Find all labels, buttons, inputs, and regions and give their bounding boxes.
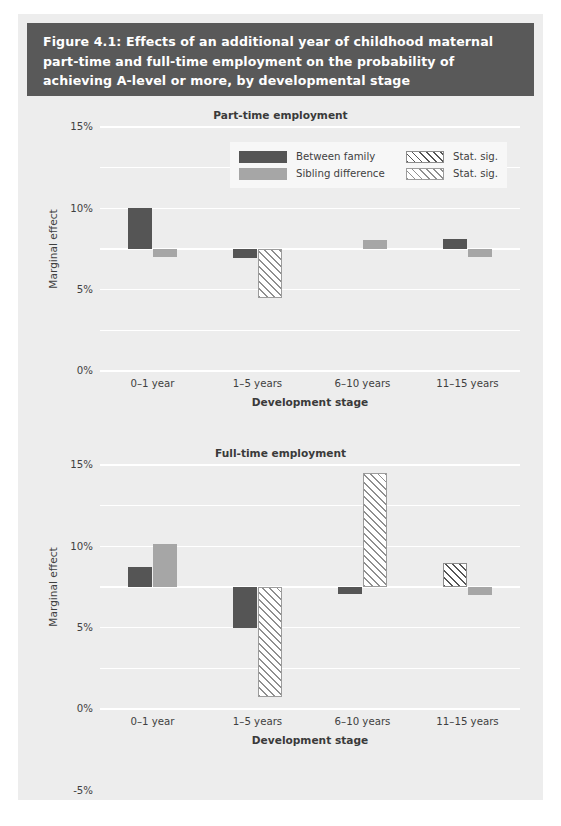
chart-panel-part-time: Part-time employment Marginal effect 15%… <box>27 100 534 430</box>
gridline-10: 10% <box>100 505 520 507</box>
bar <box>233 587 257 628</box>
legend-label-stat-sig-light: Stat. sig. <box>453 168 499 179</box>
bar <box>443 239 467 249</box>
chart-subtitle-full-time: Full-time employment <box>27 447 534 459</box>
bar <box>468 249 492 257</box>
legend-swatch-sibling-difference <box>239 168 287 180</box>
x-axis-title-full-time: Development stage <box>100 734 520 746</box>
legend-swatch-stat-sig-dark <box>406 151 444 163</box>
y-axis-title-part-time: Marginal effect <box>45 127 61 371</box>
bar <box>153 249 177 257</box>
y-axis-tick-label: 0% <box>77 703 93 714</box>
legend-swatch-stat-sig-light <box>406 168 444 180</box>
gridline-neg15: -15% <box>100 370 520 372</box>
figure-title-bar: Figure 4.1: Effects of an additional yea… <box>27 23 534 96</box>
y-axis-tick-label: 5% <box>77 283 93 294</box>
legend-swatch-between-family <box>239 151 287 163</box>
y-axis-tick-label: 0% <box>77 365 93 376</box>
bar <box>363 240 387 249</box>
legend-label-between-family: Between family <box>296 151 400 162</box>
bar <box>258 249 282 298</box>
bar <box>128 567 152 587</box>
gridline-15: 15% <box>100 464 520 466</box>
y-axis-title-full-time: Marginal effect <box>45 465 61 709</box>
y-axis-tick-label: 15% <box>70 121 93 132</box>
x-axis-tick-labels-full-time: 0–1 year1–5 years6–10 years11–15 years <box>100 716 520 727</box>
x-axis-tick-label: 6–10 years <box>310 378 415 389</box>
gridline-neg10: -10% <box>100 668 520 670</box>
gridline-15: 15% <box>100 126 520 128</box>
x-axis-tick-label: 11–15 years <box>415 716 520 727</box>
x-axis-title-part-time: Development stage <box>100 396 520 408</box>
plot-area-full-time: 15%10%5%0%-5%-10%-15% <box>100 465 520 709</box>
gridline-neg10: -10% <box>100 330 520 332</box>
bar <box>363 473 387 587</box>
chart-subtitle-part-time: Part-time employment <box>27 109 534 121</box>
y-axis-tick-label: 5% <box>77 621 93 632</box>
chart-legend: Between family Stat. sig. Sibling differ… <box>230 142 507 188</box>
x-axis-tick-label: 11–15 years <box>415 378 520 389</box>
bar <box>233 249 257 258</box>
gridline-neg5: -5% <box>100 289 520 291</box>
bar <box>153 544 177 587</box>
x-axis-tick-label: 6–10 years <box>310 716 415 727</box>
y-axis-tick-label: 10% <box>70 202 93 213</box>
gridline-neg15: -15% <box>100 708 520 710</box>
chart-panel-full-time: Full-time employment Marginal effect 15%… <box>27 438 534 768</box>
x-axis-tick-label: 1–5 years <box>205 716 310 727</box>
bar <box>468 587 492 595</box>
bar <box>258 587 282 697</box>
legend-label-sibling-difference: Sibling difference <box>296 168 400 179</box>
figure-title: Figure 4.1: Effects of an additional yea… <box>43 32 520 91</box>
y-axis-title-label: Marginal effect <box>47 547 59 626</box>
y-axis-tick-label: 10% <box>70 540 93 551</box>
gridline-5: 5% <box>100 208 520 210</box>
y-axis-tick-label: 15% <box>70 459 93 470</box>
x-axis-tick-label: 0–1 year <box>100 716 205 727</box>
x-axis-tick-labels-part-time: 0–1 year1–5 years6–10 years11–15 years <box>100 378 520 389</box>
bar <box>338 587 362 594</box>
x-axis-tick-label: 1–5 years <box>205 378 310 389</box>
gridline-neg5: -5% <box>100 627 520 629</box>
y-axis-tick-label: -5% <box>73 784 93 795</box>
bar <box>128 208 152 249</box>
figure-container: Figure 4.1: Effects of an additional yea… <box>18 14 543 800</box>
bar <box>443 563 467 587</box>
x-axis-tick-label: 0–1 year <box>100 378 205 389</box>
y-axis-title-label: Marginal effect <box>47 209 59 288</box>
legend-label-stat-sig-dark: Stat. sig. <box>453 151 499 162</box>
